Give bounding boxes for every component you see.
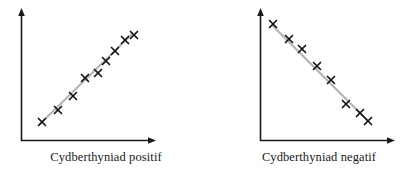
x-axis-arrowhead xyxy=(387,137,395,144)
y-axis-arrowhead xyxy=(257,8,264,16)
data-point-marker xyxy=(365,118,372,125)
axes-negative xyxy=(257,8,395,144)
trendline-negative xyxy=(272,25,368,121)
data-point-marker xyxy=(328,77,335,84)
scatter-plot-positive xyxy=(0,0,208,150)
data-point-marker xyxy=(70,93,77,100)
data-point-marker xyxy=(95,70,102,77)
y-axis-arrowhead xyxy=(18,8,25,16)
chart-panel-positive: Cydberthyniad positif xyxy=(0,0,208,180)
x-axis-arrowhead xyxy=(148,137,156,144)
chart-caption-positive: Cydberthyniad positif xyxy=(0,148,210,166)
chart-caption-negative: Cydberthyniad negatif xyxy=(209,148,417,166)
data-point-marker xyxy=(357,110,364,117)
data-point-marker xyxy=(112,48,119,55)
data-point-marker xyxy=(299,46,306,53)
chart-panel-negative: Cydberthyniad negatif xyxy=(209,0,417,180)
data-point-marker xyxy=(314,63,321,70)
scatter-plot-negative xyxy=(209,0,417,150)
data-point-marker xyxy=(122,37,129,44)
correlation-scatter-figure: Cydberthyniad positif xyxy=(0,0,417,180)
data-point-marker xyxy=(39,119,46,126)
data-point-marker xyxy=(343,101,350,108)
